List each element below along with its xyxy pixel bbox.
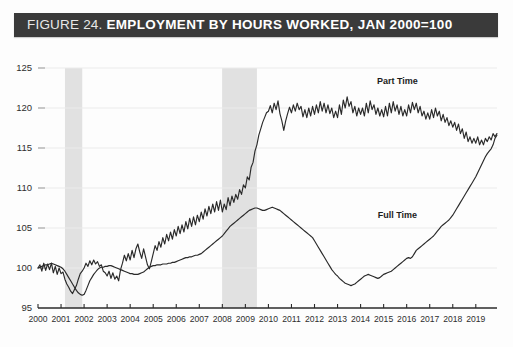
data-series-group xyxy=(38,97,497,295)
x-tick-label-2000: 2000 xyxy=(28,314,47,324)
x-tick-label-2015: 2015 xyxy=(374,314,393,324)
y-tick-label-125: 125 xyxy=(16,62,32,73)
chart-area: 95100105110115120125 2000200120022003200… xyxy=(0,42,513,347)
x-tick-label-2008: 2008 xyxy=(213,314,232,324)
x-tick-label-2005: 2005 xyxy=(144,314,163,324)
x-tick-label-2006: 2006 xyxy=(167,314,186,324)
x-tick-label-2002: 2002 xyxy=(75,314,94,324)
x-tick-label-2019: 2019 xyxy=(466,314,485,324)
series-line-part-time xyxy=(38,97,497,294)
x-tick-label-2013: 2013 xyxy=(328,314,347,324)
x-tick-label-2011: 2011 xyxy=(282,314,301,324)
figure-container: FIGURE 24. EMPLOYMENT BY HOURS WORKED, J… xyxy=(0,0,513,347)
x-tick-label-2003: 2003 xyxy=(98,314,117,324)
figure-title-main: EMPLOYMENT BY HOURS WORKED, JAN 2000=100 xyxy=(106,17,452,32)
x-tick-label-2009: 2009 xyxy=(236,314,255,324)
x-tick-label-2007: 2007 xyxy=(190,314,209,324)
y-tick-label-105: 105 xyxy=(16,222,32,233)
y-axis-labels-group: 95100105110115120125 xyxy=(16,62,45,313)
y-tick-label-110: 110 xyxy=(17,182,32,193)
gridlines-group xyxy=(38,68,497,268)
x-tick-label-2001: 2001 xyxy=(51,314,70,324)
figure-title-bar: FIGURE 24. EMPLOYMENT BY HOURS WORKED, J… xyxy=(14,13,498,37)
page-title: FIGURE 24. EMPLOYMENT BY HOURS WORKED, J… xyxy=(27,18,452,32)
x-tick-label-2012: 2012 xyxy=(305,314,324,324)
x-tick-label-2010: 2010 xyxy=(259,314,278,324)
series-line-full-time xyxy=(38,135,497,295)
x-tick-label-2018: 2018 xyxy=(443,314,462,324)
y-tick-label-120: 120 xyxy=(16,102,32,113)
y-tick-label-100: 100 xyxy=(16,262,32,273)
x-axis-labels-group: 2000200120022003200420052006200720082009… xyxy=(28,314,485,324)
x-axis-group xyxy=(38,304,497,308)
x-tick-label-2017: 2017 xyxy=(420,314,439,324)
y-tick-label-95: 95 xyxy=(21,302,32,313)
series-label-full-time: Full Time xyxy=(378,210,417,220)
x-tick-label-2014: 2014 xyxy=(351,314,370,324)
y-tick-label-115: 115 xyxy=(17,142,32,153)
x-tick-label-2004: 2004 xyxy=(121,314,140,324)
series-label-part-time: Part Time xyxy=(377,76,418,86)
figure-number: FIGURE 24. xyxy=(27,17,103,32)
employment-line-chart: 95100105110115120125 2000200120022003200… xyxy=(0,42,513,347)
x-tick-label-2016: 2016 xyxy=(397,314,416,324)
